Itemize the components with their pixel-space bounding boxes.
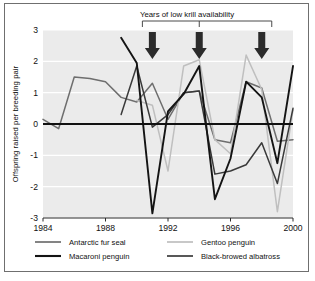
chart-legend: Antarctic fur sealGentoo penguinMacaroni… bbox=[35, 238, 280, 261]
x-tick-label: 1984 bbox=[33, 223, 52, 233]
y-tick-label: -2 bbox=[30, 182, 38, 192]
y-tick-label: -3 bbox=[30, 213, 38, 223]
legend-label: Gentoo penguin bbox=[201, 238, 255, 247]
y-tick-label: 1 bbox=[33, 88, 38, 98]
krill-availability-line-chart: 3210-1-2-3 19841988199219962000 Offsprin… bbox=[5, 4, 308, 271]
y-axis-label: Offspring raised per breeding pair bbox=[11, 65, 20, 182]
legend-label: Macaroni penguin bbox=[69, 252, 129, 261]
legend-label: Black-browed albatross bbox=[201, 252, 280, 261]
x-axis: 19841988199219962000 bbox=[33, 218, 302, 233]
y-tick-label: -1 bbox=[30, 150, 38, 160]
y-tick-label: 0 bbox=[33, 119, 38, 129]
legend-label: Antarctic fur seal bbox=[69, 238, 126, 247]
annotation-bracket bbox=[142, 21, 271, 27]
figure-frame: 3210-1-2-3 19841988199219962000 Offsprin… bbox=[4, 3, 309, 272]
y-tick-label: 3 bbox=[33, 25, 38, 35]
x-tick-label: 1996 bbox=[221, 223, 240, 233]
x-tick-label: 1988 bbox=[96, 223, 115, 233]
y-tick-label: 2 bbox=[33, 56, 38, 66]
annotation-layer: Years of low krill availability bbox=[140, 10, 272, 27]
x-tick-label: 1992 bbox=[158, 223, 177, 233]
annotation-label: Years of low krill availability bbox=[140, 10, 234, 19]
y-axis: 3210-1-2-3 bbox=[30, 25, 38, 223]
x-tick-label: 2000 bbox=[283, 223, 302, 233]
